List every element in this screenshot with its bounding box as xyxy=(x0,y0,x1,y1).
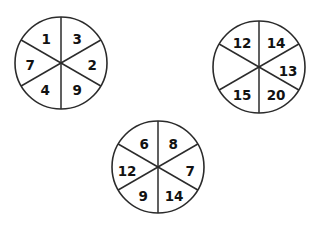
wheel-2: 12 14 13 20 15 xyxy=(212,20,306,114)
wheel-3: 6 8 7 14 9 12 xyxy=(111,120,205,214)
wheel-1-sector-top-left: 1 xyxy=(41,33,50,47)
wheel-1-sector-bottom-left: 4 xyxy=(40,84,49,98)
wheel-1-sector-bottom-right: 9 xyxy=(72,84,81,98)
wheel-2-sector-bottom-left: 15 xyxy=(233,89,251,103)
wheel-1-sector-top-right: 3 xyxy=(72,33,81,47)
wheel-3-sector-bottom-right: 14 xyxy=(165,190,183,204)
wheel-3-sector-top-right: 8 xyxy=(168,138,177,152)
wheel-3-sector-top-left: 6 xyxy=(139,138,148,152)
wheel-3-sector-bottom-left: 9 xyxy=(138,190,147,204)
wheel-1-sector-middle-left: 7 xyxy=(25,59,34,73)
wheel-2-sector-bottom-right: 20 xyxy=(267,89,285,103)
wheel-2-sector-top-right: 14 xyxy=(267,37,285,51)
figure-canvas: 1 3 2 9 4 7 12 14 13 20 15 6 8 7 14 9 xyxy=(0,0,321,230)
wheel-2-sector-top-left: 12 xyxy=(233,37,251,51)
wheel-1-sector-middle-right: 2 xyxy=(87,59,96,73)
wheel-1: 1 3 2 9 4 7 xyxy=(14,16,108,110)
wheel-3-sector-middle-right: 7 xyxy=(185,165,194,179)
wheel-3-sector-middle-left: 12 xyxy=(118,165,136,179)
wheel-2-sector-middle-right: 13 xyxy=(279,65,297,79)
